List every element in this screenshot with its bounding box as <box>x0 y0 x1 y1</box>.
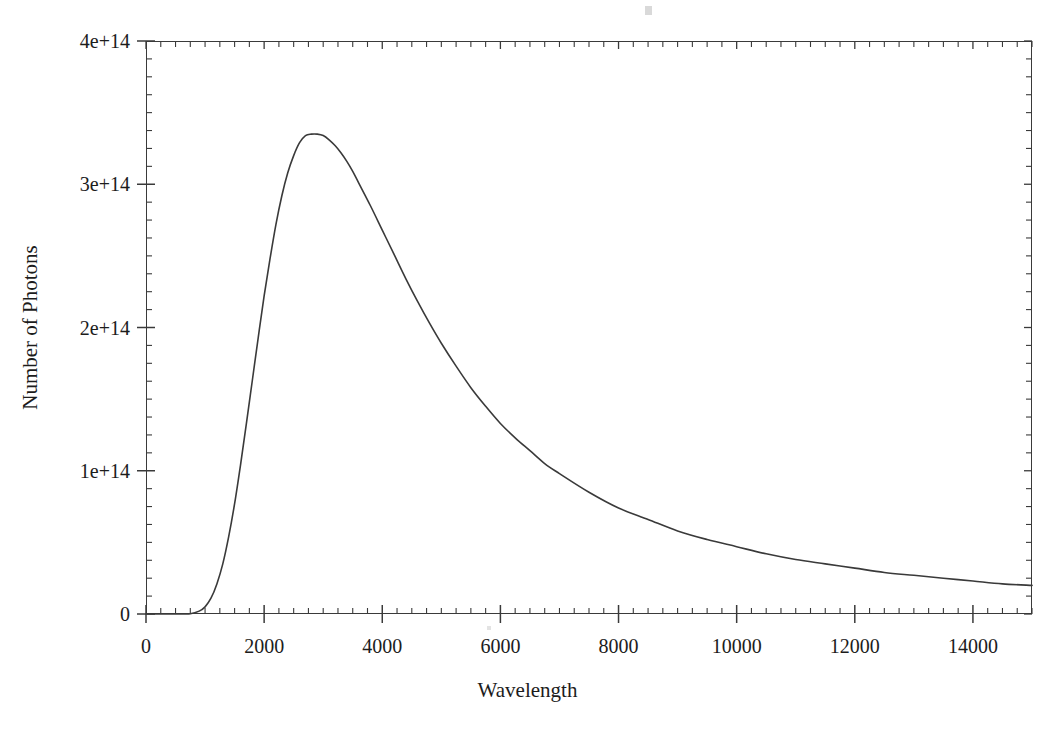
chart-figure: 01e+142e+143e+144e+14 020004000600080001… <box>0 0 1055 731</box>
x-tick-label: 10000 <box>712 636 762 656</box>
x-tick-label: 0 <box>141 636 151 656</box>
x-axis-title: Wavelength <box>0 678 1055 703</box>
x-tick-label: 14000 <box>948 636 998 656</box>
scan-artifact <box>645 6 652 15</box>
plot-area <box>146 41 1032 614</box>
x-tick-label: 8000 <box>599 636 639 656</box>
x-tick-label: 6000 <box>480 636 520 656</box>
y-axis-title-wrapper: Number of Photons <box>0 0 60 655</box>
scan-artifact <box>487 626 491 630</box>
x-tick-label: 12000 <box>830 636 880 656</box>
x-tick-label: 2000 <box>244 636 284 656</box>
x-tick-label: 4000 <box>362 636 402 656</box>
y-axis-title: Number of Photons <box>18 245 43 410</box>
